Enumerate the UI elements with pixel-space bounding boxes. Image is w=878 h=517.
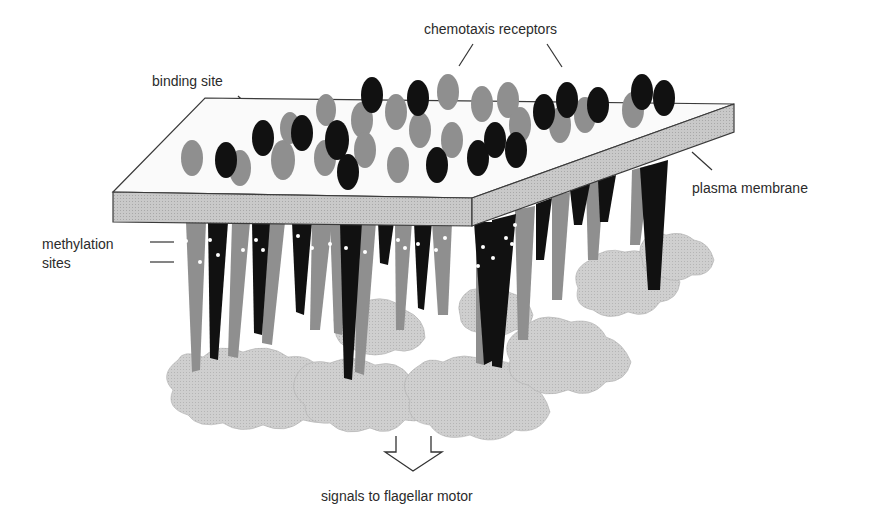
membrane-front-face [113,192,472,226]
label-plasma-membrane: plasma membrane [692,180,808,196]
leader-line-plasma-membrane [692,152,712,170]
diagram-canvas [0,0,878,517]
leader-line-receptor-1 [459,44,473,66]
label-methylation-sites-line2: sites [42,255,71,271]
label-binding-site: binding site [152,73,223,89]
signal-arrow-icon [385,436,442,471]
label-chemotaxis-receptors: chemotaxis receptors [424,21,557,37]
chemoreceptor-array-diagram: chemotaxis receptors binding site plasma… [0,0,878,517]
leader-line-receptor-2 [547,44,562,67]
label-methylation-sites-line1: methylation [42,236,114,252]
label-signals-to-flagellar-motor: signals to flagellar motor [321,488,473,504]
